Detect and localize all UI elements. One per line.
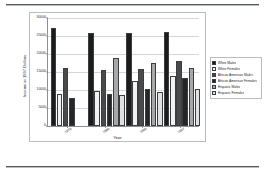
document-rule-top <box>6 4 259 5</box>
chart-frame: Income in 1997 Dollars 30000250002000015… <box>29 12 206 142</box>
bar-group <box>48 18 88 126</box>
y-tick-label: 20000 <box>37 52 46 56</box>
bar <box>170 76 176 126</box>
bar <box>164 32 170 126</box>
x-tick-label: 1970 <box>64 127 73 134</box>
legend-swatch-icon <box>212 61 216 65</box>
bar-group <box>161 18 201 126</box>
bar <box>145 89 151 126</box>
y-tick-label: 0 <box>44 124 46 128</box>
bar <box>94 91 100 126</box>
bar <box>51 28 57 126</box>
legend-label: African American Females <box>218 79 257 83</box>
legend-label: White Females <box>218 67 240 71</box>
x-tick-label: 1990 <box>139 127 148 134</box>
bar <box>176 61 182 126</box>
bar <box>132 81 138 126</box>
y-axis-title: Income in 1997 Dollars <box>20 18 30 134</box>
bar <box>88 33 94 126</box>
bars-layer <box>48 18 199 126</box>
bar <box>138 69 144 126</box>
y-tick-label: 10000 <box>37 88 46 92</box>
x-tick-label: 1997 <box>177 127 186 134</box>
y-tick-label: 30000 <box>37 16 46 20</box>
document-rule-bottom <box>6 166 259 167</box>
bar <box>63 68 69 126</box>
bar <box>151 63 157 126</box>
bar <box>69 98 75 126</box>
plot-area: 300002500020000150001000050000 197019801… <box>47 18 199 127</box>
bar <box>101 70 107 126</box>
legend-swatch-icon <box>212 79 216 83</box>
legend-label: Hispanic Females <box>218 91 245 95</box>
y-tick-label: 5000 <box>38 106 46 110</box>
legend-label: White Males <box>218 61 236 65</box>
y-tick-label: 25000 <box>37 34 46 38</box>
bar-group <box>124 18 164 126</box>
legend-swatch-icon <box>212 91 216 95</box>
legend-swatch-icon <box>212 73 216 77</box>
x-axis-title: Year <box>30 135 205 140</box>
legend-item: Hispanic Females <box>212 90 259 96</box>
bar-group <box>86 18 126 126</box>
y-tick-label: 15000 <box>37 70 46 74</box>
legend-swatch-icon <box>212 67 216 71</box>
bar <box>195 89 201 126</box>
legend-label: Hispanic Males <box>218 85 241 89</box>
bar <box>113 58 119 126</box>
bar <box>182 78 188 126</box>
legend-swatch-icon <box>212 85 216 89</box>
bar <box>189 68 195 126</box>
bar <box>57 94 63 126</box>
legend-label: African American Males <box>218 73 253 77</box>
bar <box>107 94 113 126</box>
bar <box>126 33 132 126</box>
chart-legend: White MalesWhite FemalesAfrican American… <box>210 57 262 99</box>
figure-root: Income in 1997 Dollars 30000250002000015… <box>0 0 265 176</box>
x-tick-label: 1980 <box>101 127 110 134</box>
